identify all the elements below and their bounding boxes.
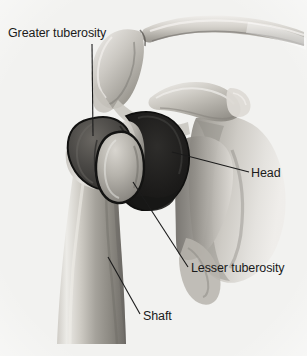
label-greater-tuberosity: Greater tuberosity (8, 27, 106, 40)
label-lesser-tuberosity: Lesser tuberosity (191, 262, 285, 275)
anatomy-figure: Greater tuberosity Head Lesser tuberosit… (0, 0, 307, 356)
label-shaft: Shaft (143, 310, 172, 323)
label-head: Head (251, 167, 280, 180)
